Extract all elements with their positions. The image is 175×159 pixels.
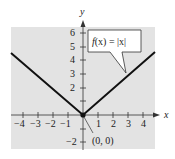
x-tick-label: −3 (30, 118, 41, 129)
y-tick-label: −2 (66, 136, 77, 147)
x-axis-arrow-icon (153, 113, 160, 118)
y-tick-label: 3 (70, 68, 75, 79)
y-tick-label: 6 (70, 27, 75, 38)
x-tick-label: −1 (60, 118, 71, 129)
y-tick-label: 4 (70, 54, 75, 65)
x-tick-label: 2 (111, 118, 116, 129)
absolute-value-graph: x y −4 −3 −2 −1 1 2 3 4 6 5 4 3 (0, 0, 175, 159)
x-tick-label: −2 (45, 118, 56, 129)
x-tick-label: 3 (126, 118, 131, 129)
origin-point (80, 112, 85, 117)
x-axis-label: x (163, 109, 169, 120)
function-label: f(x) = |x| (92, 36, 126, 48)
x-tick-label: 4 (141, 118, 146, 129)
x-tick-label: 1 (96, 118, 101, 129)
y-tick-label: 5 (70, 41, 75, 52)
x-tick-label: −4 (14, 118, 25, 129)
origin-label: (0, 0) (92, 135, 114, 147)
y-axis-arrow-icon (81, 20, 86, 27)
y-tick-label: 2 (70, 82, 75, 93)
y-axis-label: y (79, 6, 85, 17)
